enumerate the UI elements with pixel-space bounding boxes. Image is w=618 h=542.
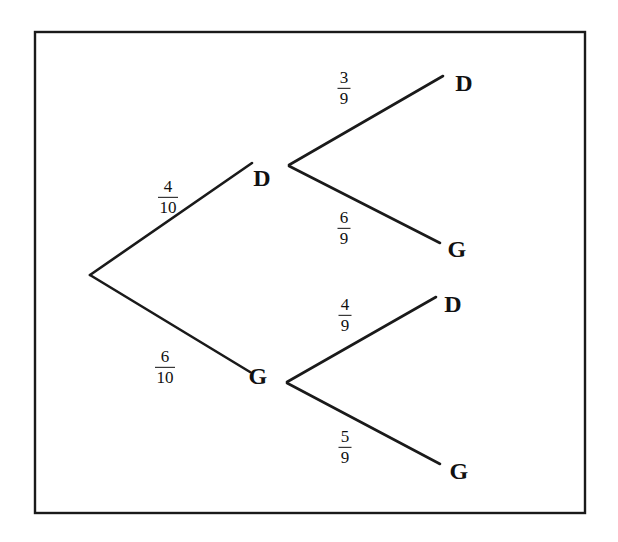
fraction-numerator: 3 (338, 69, 351, 88)
node-leaf-gd: D (444, 292, 462, 316)
node-leaf-gg: G (450, 459, 469, 483)
fraction-denominator: 10 (158, 198, 178, 217)
fraction-denominator: 9 (339, 448, 352, 467)
fraction-denominator: 9 (338, 89, 351, 108)
fraction-numerator: 6 (155, 348, 175, 367)
node-leaf-dd: D (455, 71, 473, 95)
fraction-denominator: 9 (338, 229, 351, 248)
node-stage1-g: G (249, 364, 268, 388)
branch-label-root-to-g: 6 10 (155, 348, 175, 386)
branch-label-root-to-d: 4 10 (158, 178, 178, 216)
branch-label-d-to-g: 6 9 (338, 209, 351, 247)
fraction-denominator: 9 (339, 316, 352, 335)
branch-label-g-to-g: 5 9 (339, 428, 352, 466)
node-leaf-dg: G (448, 237, 467, 261)
fraction-denominator: 10 (155, 368, 175, 387)
fraction-numerator: 5 (339, 428, 352, 447)
probability-tree-figure: D G D G D G 4 10 6 10 3 9 6 9 4 9 5 9 (0, 0, 618, 542)
figure-border (35, 32, 585, 513)
tree-canvas (0, 0, 618, 542)
node-stage1-d: D (253, 166, 271, 190)
branch-label-d-to-d: 3 9 (338, 69, 351, 107)
fraction-numerator: 6 (338, 209, 351, 228)
fraction-numerator: 4 (339, 296, 352, 315)
branch-label-g-to-d: 4 9 (339, 296, 352, 334)
fraction-numerator: 4 (158, 178, 178, 197)
